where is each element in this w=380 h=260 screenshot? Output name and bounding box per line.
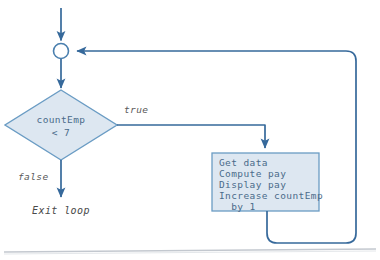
decision-node: countEmp < 7 — [5, 90, 117, 160]
true-branch-edge — [117, 125, 265, 148]
exit-loop-label: Exit loop — [32, 205, 90, 216]
false-branch-label: false — [18, 171, 49, 182]
process-line-2: Compute pay — [219, 168, 286, 179]
process-node: Get data Compute pay Display pay Increas… — [212, 153, 323, 212]
true-branch-label: true — [124, 104, 148, 115]
process-line-1: Get data — [219, 157, 268, 168]
flowchart-canvas: countEmp < 7 true Get data Compute pay D… — [0, 0, 380, 260]
process-line-3: Display pay — [219, 179, 286, 190]
decision-line-1: countEmp — [37, 114, 86, 125]
process-line-5: by 1 — [219, 201, 256, 212]
loop-back-edge — [77, 51, 356, 243]
process-line-4: Increase countEmp — [219, 190, 323, 201]
decision-line-2: < 7 — [52, 127, 70, 138]
page-edge-line — [4, 249, 376, 254]
merge-connector — [54, 44, 69, 59]
flowchart-figure: countEmp < 7 true Get data Compute pay D… — [0, 0, 380, 260]
